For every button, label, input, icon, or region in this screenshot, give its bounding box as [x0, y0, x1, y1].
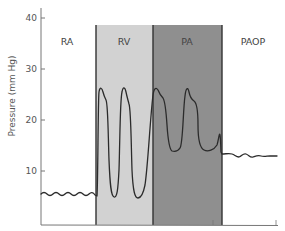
label-paop: PAOP	[241, 36, 266, 47]
y-ticks	[41, 18, 45, 171]
y-tick-label-40: 40	[26, 13, 38, 23]
x-axis	[41, 225, 278, 226]
label-pa: PA	[181, 36, 193, 47]
label-ra: RA	[61, 36, 74, 47]
label-rv: RV	[118, 36, 131, 47]
y-axis-title: Pressure (mm Hg)	[7, 55, 17, 136]
pressure-waveform-chart: 40 30 20 10 Pressure (mm Hg) RA RV PA PA…	[0, 0, 285, 231]
pa-region	[153, 25, 222, 225]
y-tick-label-20: 20	[26, 115, 38, 125]
y-tick-label-10: 10	[26, 166, 38, 176]
rv-region	[96, 25, 153, 225]
y-tick-label-30: 30	[26, 64, 38, 74]
